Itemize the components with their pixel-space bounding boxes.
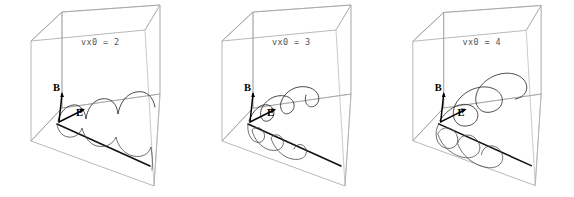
wireframe-box bbox=[222, 5, 351, 186]
panel-vx0-2: B E vx0 = 2 bbox=[0, 0, 191, 197]
b-arrow-head bbox=[251, 92, 255, 97]
e-field-label: E bbox=[76, 107, 83, 118]
trajectory-3d bbox=[440, 73, 527, 126]
panel-vx0-4: B E vx0 = 4 bbox=[382, 0, 573, 197]
e-field-label: E bbox=[267, 107, 274, 118]
b-arrow-head bbox=[60, 92, 64, 97]
b-field-label: B bbox=[244, 82, 251, 93]
field-vectors: B E bbox=[244, 82, 276, 122]
panel-caption: vx0 = 2 bbox=[81, 37, 120, 47]
b-field-label: B bbox=[435, 82, 442, 93]
field-vectors: B E bbox=[53, 82, 85, 122]
panel-caption: vx0 = 4 bbox=[463, 37, 501, 47]
b-arrow-head bbox=[442, 92, 446, 97]
panel-caption: vx0 = 3 bbox=[272, 37, 311, 47]
trajectory-floor-projection bbox=[248, 124, 307, 159]
wireframe-box bbox=[31, 5, 160, 186]
wireframe-box bbox=[413, 5, 541, 185]
drift-line bbox=[57, 124, 150, 166]
panel-vx0-3: B E vx0 = 3 bbox=[191, 0, 382, 197]
field-vectors: B E bbox=[435, 82, 467, 122]
e-field-label: E bbox=[458, 107, 465, 118]
trajectory-3d bbox=[249, 87, 319, 122]
b-field-label: B bbox=[53, 82, 60, 93]
figure-canvas: B E vx0 = 2 bbox=[0, 0, 574, 197]
